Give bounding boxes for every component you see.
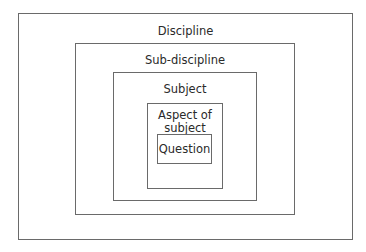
label-aspect-line2: subject <box>148 121 222 135</box>
label-question: Question <box>158 142 211 156</box>
box-question: Question <box>157 134 212 164</box>
label-aspect-line1: Aspect of <box>148 108 222 122</box>
label-sub-discipline: Sub-discipline <box>76 53 294 67</box>
label-subject: Subject <box>114 82 256 96</box>
label-discipline: Discipline <box>19 24 352 38</box>
